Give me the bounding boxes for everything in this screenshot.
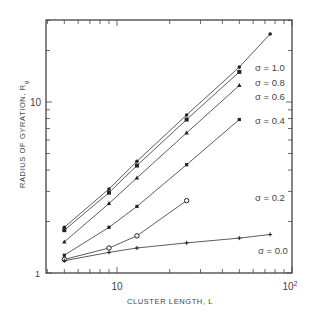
series-1.0 (63, 32, 272, 229)
data-point (62, 228, 66, 232)
data-point (107, 250, 111, 254)
data-point (238, 118, 241, 121)
legend-sigma-0.4: σ = 0.4 (255, 115, 285, 126)
legend-sigma-0.0: σ = 0.0 (258, 245, 288, 256)
data-point (135, 205, 138, 208)
x-tick-100: 102 (282, 280, 297, 292)
data-point (268, 32, 272, 36)
data-point (107, 191, 111, 195)
data-point (107, 187, 111, 191)
axis-ticks (46, 20, 292, 273)
data-point (185, 113, 189, 117)
legend-sigma-0.6: σ = 0.6 (255, 91, 285, 102)
data-point (237, 83, 241, 87)
data-point (135, 234, 139, 238)
data-point (185, 241, 189, 245)
data-point (184, 198, 188, 202)
data-point (185, 118, 189, 122)
data-point (63, 254, 66, 257)
series-0.6 (62, 83, 241, 243)
series-0.8 (62, 70, 241, 232)
data-point (185, 163, 188, 166)
series-0.4 (63, 118, 241, 257)
chart: 10 102 1 10 CLUSTER LENGTH, L RADIUS OF … (0, 0, 316, 317)
y-tick-1: 1 (35, 269, 40, 279)
data-point (237, 236, 241, 240)
svg-text:RADIUS OF GYRATION, Rg: RADIUS OF GYRATION, Rg (18, 80, 29, 188)
data-series (62, 32, 272, 263)
legend-sigma-0.8: σ = 0.8 (255, 77, 285, 88)
legend-sigma-0.2: σ = 0.2 (255, 192, 285, 203)
data-point (238, 65, 242, 69)
y-tick-10: 10 (30, 97, 42, 108)
data-point (107, 246, 111, 250)
data-point (135, 164, 139, 168)
plot-frame (46, 20, 292, 273)
data-point (135, 160, 139, 164)
data-point (268, 232, 272, 236)
x-tick-10: 10 (111, 281, 123, 292)
data-point (237, 70, 241, 74)
x-axis-label: CLUSTER LENGTH, L (127, 297, 213, 306)
y-axis-label: RADIUS OF GYRATION, Rg (18, 80, 29, 188)
legend-sigma-1.0: σ = 1.0 (255, 62, 285, 73)
series-0.2 (62, 198, 189, 261)
data-point (135, 246, 139, 250)
data-point (107, 226, 110, 229)
